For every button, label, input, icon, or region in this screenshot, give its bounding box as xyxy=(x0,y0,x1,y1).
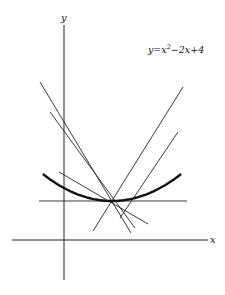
tangent-line-3 xyxy=(50,112,135,228)
parabola-tangents-figure: y x y=x2−2x+4 xyxy=(0,0,225,295)
tangent-line-2 xyxy=(93,87,183,231)
x-axis-label: x xyxy=(210,234,216,245)
tangent-line-1 xyxy=(40,82,131,233)
tangent-lines xyxy=(39,82,187,233)
curve-equation-label: y=x2−2x+4 xyxy=(147,43,204,55)
equation-prefix: y=x xyxy=(147,44,167,55)
equation-suffix: −2x+4 xyxy=(171,44,204,55)
y-axis-label: y xyxy=(60,12,67,23)
chart-canvas: y x y=x2−2x+4 xyxy=(0,0,225,295)
tangent-line-4 xyxy=(120,132,178,218)
